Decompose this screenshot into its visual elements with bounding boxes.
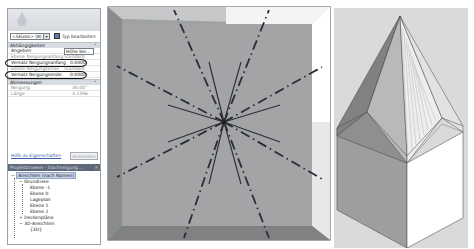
plan-viewport[interactable] [104,2,334,247]
highlight-oval [5,71,87,79]
tree-item-label: {3D} [30,227,42,232]
roof-type-icon [16,11,28,27]
tree-item-label: Ebene -1 [30,185,50,190]
3d-viewport[interactable] [334,8,468,248]
project-browser-tree: − Ansichten (nach Namen) − Grundrisse Eb… [8,172,100,246]
collapse-toggle[interactable]: − [11,173,15,178]
tree-item-label: Ebene 2 [30,209,48,214]
chevron-down-icon[interactable]: ▾ [43,34,49,39]
property-value: 3.1596 [72,91,88,97]
edit-type-button[interactable]: Typ bearbeiten [62,33,96,40]
spire-roof-3d-model[interactable] [334,8,468,248]
properties-panel: <Skizze> (8) ▾ Typ bearbeiten Abhängigke… [7,8,101,245]
close-icon[interactable]: × [94,164,98,171]
help-properties-link[interactable]: Hilfe zu Eigenschaften [11,153,61,158]
type-preview [8,9,100,31]
tree-connector [22,184,23,214]
tree-connector [14,178,15,238]
project-browser-header: Projektbrowser - Dachneigung... × [8,164,100,171]
project-browser-title: Projektbrowser - Dachneigung... [10,165,82,170]
tree-item-label: Lageplan [30,197,51,202]
property-name: Länge [11,91,25,97]
tree-item-3d[interactable]: {3D} [30,227,42,233]
edit-type-icon[interactable] [54,33,60,39]
expand-toggle[interactable]: + [19,215,23,220]
collapse-toggle[interactable]: − [19,221,23,226]
tree-item-label: Ansichten (nach Namen) [16,172,76,179]
tree-item-label: Deckenpläne [24,215,53,220]
type-selector-value: <Skizze> (8) [12,34,42,39]
collapse-toggle[interactable]: − [19,179,23,184]
tree-item-label: Ebene 1 [30,203,48,208]
property-row[interactable]: Länge 3.1596 [8,91,100,97]
tree-item-label: Grundrisse [24,179,48,184]
tree-item-label: 3D-Ansichten [24,221,54,226]
apply-button[interactable]: Anwenden [70,152,98,160]
type-selector-dropdown[interactable]: <Skizze> (8) ▾ [10,33,50,40]
tree-item-label: Ebene 0 [30,191,48,196]
type-selector-row: <Skizze> (8) ▾ Typ bearbeiten [10,33,98,41]
roof-sketch-drawing[interactable] [104,2,334,247]
